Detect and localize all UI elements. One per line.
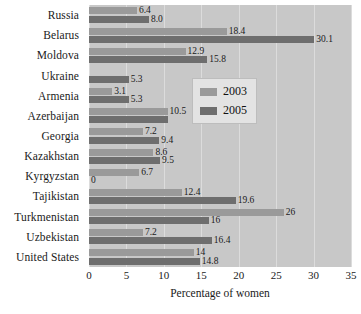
bar-row: 2616 (89, 207, 351, 227)
chart-legend: 20032005 (192, 78, 257, 124)
bar-value-label: 16.4 (212, 235, 231, 246)
bar-value-label: 0 (89, 175, 96, 186)
legend-label: 2003 (223, 84, 247, 99)
value-axis-ticks: 05101520253035 (89, 267, 351, 285)
bar-value-label: 8.0 (149, 14, 163, 25)
bar-2005 (89, 258, 200, 265)
x-tick-label: 30 (308, 269, 319, 281)
bar-2005 (89, 56, 207, 63)
bar-row: 18.430.1 (89, 25, 351, 45)
bar-2003 (89, 209, 284, 216)
bar-value-label: 5.3 (129, 94, 143, 105)
x-tick-label: 35 (346, 269, 357, 281)
x-axis-title: Percentage of women (89, 287, 351, 299)
bar-group-2003: 12.4 (89, 189, 351, 196)
bar-2003 (89, 128, 143, 135)
bar-row: 7.29.4 (89, 126, 351, 146)
x-tick-label: 20 (233, 269, 244, 281)
legend-swatch-icon (200, 107, 217, 115)
chart-title-cropped (0, 0, 361, 4)
bar-group-2005: 15.8 (89, 56, 351, 63)
bar-2003 (89, 48, 186, 55)
bar-2003 (89, 7, 137, 14)
bar-group-2005: 16.4 (89, 237, 351, 244)
bar-2005 (89, 76, 129, 83)
category-label: Ukraine (0, 65, 84, 85)
bar-2005 (89, 116, 168, 123)
bar-group-2005: 8.0 (89, 16, 351, 23)
bar-row: 6.48.0 (89, 5, 351, 25)
bar-value-label: 9.5 (160, 155, 174, 166)
bar-group-2005: 9.5 (89, 157, 351, 164)
category-label: Tajikistan (0, 186, 84, 206)
bar-group-2003: 7.2 (89, 128, 351, 135)
bar-value-label: 9.4 (159, 135, 173, 146)
bar-2003 (89, 28, 227, 35)
bar-2003 (89, 169, 139, 176)
legend-item-2005[interactable]: 2005 (200, 103, 247, 118)
bar-row: 6.70 (89, 166, 351, 186)
bar-row: 1414.8 (89, 247, 351, 267)
bar-2005 (89, 237, 212, 244)
x-tick-label: 5 (124, 269, 130, 281)
bar-2003 (89, 249, 194, 256)
category-label: Kyrgyzstan (0, 166, 84, 186)
bar-value-label: 14.8 (200, 256, 219, 267)
bar-2003 (89, 149, 153, 156)
bar-chart: RussiaBelarusMoldovaUkraineArmeniaAzerba… (0, 0, 361, 314)
bar-group-2005: 0 (89, 177, 351, 184)
bar-row: 8.69.5 (89, 146, 351, 166)
bar-group-2005: 30.1 (89, 36, 351, 43)
category-axis-labels: RussiaBelarusMoldovaUkraineArmeniaAzerba… (0, 5, 84, 267)
bar-group-2005: 9.4 (89, 137, 351, 144)
category-label: Belarus (0, 25, 84, 45)
category-label: Georgia (0, 126, 84, 146)
bar-group-2003: 6.4 (89, 7, 351, 14)
bar-row: 12.915.8 (89, 45, 351, 65)
bar-2005 (89, 157, 160, 164)
bar-group-2005: 14.8 (89, 258, 351, 265)
plot-area: 6.48.018.430.112.915.85.33.15.310.57.29.… (89, 5, 351, 267)
x-tick-label: 25 (271, 269, 282, 281)
bar-2003 (89, 189, 182, 196)
bar-2005 (89, 197, 236, 204)
bar-value-label: 30.1 (314, 34, 333, 45)
bar-group-2003: 18.4 (89, 28, 351, 35)
bar-group-2005: 19.6 (89, 197, 351, 204)
bar-2005 (89, 137, 159, 144)
bar-rows: 6.48.018.430.112.915.85.33.15.310.57.29.… (89, 5, 351, 267)
bar-group-2005: 16 (89, 217, 351, 224)
bar-value-label: 5.3 (129, 74, 143, 85)
bar-group-2003: 14 (89, 249, 351, 256)
bar-group-2003: 8.6 (89, 149, 351, 156)
x-tick-label: 0 (86, 269, 92, 281)
category-label: Russia (0, 5, 84, 25)
bar-2005 (89, 217, 209, 224)
category-label: Uzbekistan (0, 227, 84, 247)
bar-row: 12.419.6 (89, 186, 351, 206)
category-label: Azerbaijan (0, 106, 84, 126)
bar-value-label: 19.6 (236, 195, 255, 206)
x-tick-label: 15 (196, 269, 207, 281)
bar-group-2003: 6.7 (89, 169, 351, 176)
category-label: Kazakhstan (0, 146, 84, 166)
bar-2003 (89, 229, 143, 236)
bar-value-label: 16 (209, 215, 221, 226)
gridline (351, 5, 352, 267)
bar-2005 (89, 16, 149, 23)
bar-2003 (89, 88, 112, 95)
bar-value-label: 15.8 (207, 54, 226, 65)
legend-label: 2005 (223, 103, 247, 118)
bar-2003 (89, 108, 168, 115)
category-label: Turkmenistan (0, 207, 84, 227)
x-tick-label: 10 (158, 269, 169, 281)
bar-2005 (89, 36, 314, 43)
bar-2005 (89, 96, 129, 103)
legend-item-2003[interactable]: 2003 (200, 84, 247, 99)
bar-row: 7.216.4 (89, 227, 351, 247)
category-label: United States (0, 247, 84, 267)
legend-swatch-icon (200, 88, 217, 96)
category-label: Armenia (0, 86, 84, 106)
category-label: Moldova (0, 45, 84, 65)
